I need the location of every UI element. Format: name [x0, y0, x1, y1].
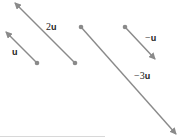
vector-2u — [15, 3, 77, 65]
bottom-divider — [0, 136, 105, 137]
tail-dot-2u — [73, 61, 78, 66]
label-neg3u: −3u — [134, 71, 150, 81]
tail-dot-u — [35, 61, 40, 66]
tail-dot-negu — [123, 25, 128, 30]
tail-dot-neg3u — [79, 25, 84, 30]
vector-diagram — [0, 0, 179, 139]
label-u: u — [12, 47, 18, 57]
label-negu: −u — [145, 33, 156, 43]
vector-u — [6, 32, 39, 65]
label-2u: 2u — [46, 22, 57, 32]
vector-neg3u — [79, 25, 176, 134]
